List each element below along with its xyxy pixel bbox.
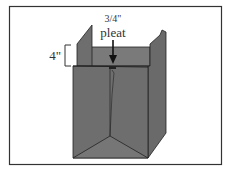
bag-pleat-diagram: 4" 3/4" pleat — [0, 0, 228, 170]
pleat-size-label: 3/4" — [105, 13, 122, 24]
bag-back-wall — [91, 47, 150, 66]
dimension-label: 4" — [49, 48, 61, 63]
pleat-mark — [109, 67, 116, 69]
pleat-label: pleat — [100, 25, 126, 40]
